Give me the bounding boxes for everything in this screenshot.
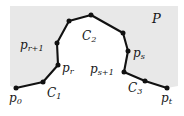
label-pt: pt (161, 92, 172, 104)
label-pr-plus-1: pr+1 (20, 39, 44, 51)
label-pr: pr (62, 62, 74, 74)
vertex-dot-5 (89, 13, 94, 18)
label-C1: C1 (47, 87, 61, 99)
vertex-dot-ps (126, 49, 131, 54)
polygonal-chain-figure: p0 C1 pr pr+1 C2 P ps ps+1 C3 pt (0, 0, 184, 116)
vertex-dot-ps1 (122, 70, 127, 75)
label-ps: ps (133, 47, 145, 59)
vertex-dot-1 (41, 80, 46, 85)
label-ps-plus-1: ps+1 (90, 63, 114, 75)
label-p0: p0 (9, 92, 22, 104)
vertex-dot-pr1 (55, 41, 60, 46)
vertex-dot-6 (121, 31, 126, 36)
vertex-dot-4 (67, 19, 72, 24)
vertex-dot-p0 (14, 86, 19, 91)
label-region-P: P (152, 12, 161, 25)
vertex-dot-9 (143, 79, 148, 84)
vertex-dot-pt (165, 86, 170, 91)
label-C2: C2 (82, 30, 96, 42)
label-C3: C3 (128, 82, 142, 94)
vertex-dot-pr (56, 63, 61, 68)
